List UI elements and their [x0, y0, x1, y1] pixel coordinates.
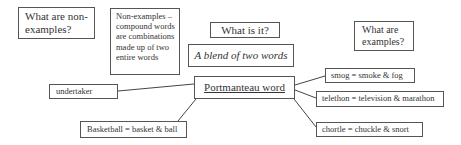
central-concept: Portmanteau word [194, 76, 295, 99]
question-examples: What are examples? [354, 21, 414, 51]
connector-basketball [178, 99, 196, 121]
definition-box: A blend of two words [188, 44, 294, 67]
example-text: smog = smoke & fog [331, 70, 403, 80]
non-examples-note: Non-examples – compound words are combin… [110, 8, 180, 75]
connector-telethon [295, 90, 316, 98]
example-text: telethon = television & marathon [322, 93, 434, 103]
non-example-box: Basketball = basket & ball [80, 121, 187, 138]
central-concept-text: Portmanteau word [204, 81, 285, 93]
example-box: chortle = chuckle & snort [316, 122, 423, 137]
non-example-text: undertaker [56, 86, 92, 96]
example-box: telethon = television & marathon [316, 91, 444, 107]
question-examples-text: What are examples? [362, 24, 404, 47]
connector-undertaker [118, 84, 194, 91]
connector-smog [295, 76, 325, 85]
definition-text: A blend of two words [195, 49, 288, 61]
example-box: smog = smoke & fog [325, 68, 415, 83]
question-what-is-it: What is it? [210, 22, 280, 38]
non-examples-note-text: Non-examples – compound words are combin… [116, 11, 175, 62]
example-text: chortle = chuckle & snort [322, 124, 409, 134]
question-non-examples: What are non-examples? [18, 7, 95, 39]
non-example-text: Basketball = basket & ball [87, 124, 177, 134]
connector-chortle [294, 99, 316, 127]
question-non-examples-text: What are non-examples? [25, 10, 88, 35]
non-example-box: undertaker [49, 84, 118, 99]
question-what-is-it-text: What is it? [221, 24, 269, 36]
